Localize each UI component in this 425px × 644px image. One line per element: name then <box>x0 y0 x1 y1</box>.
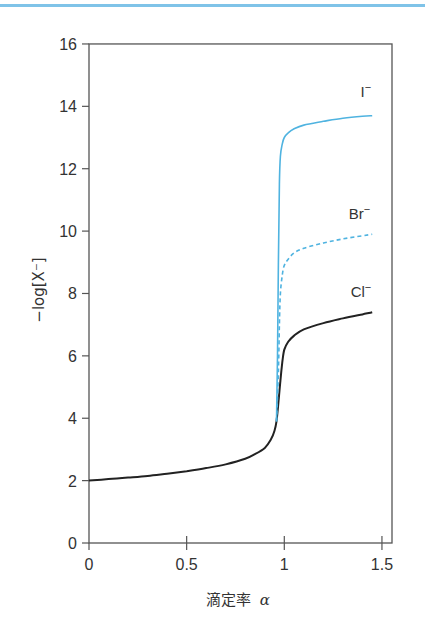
series-label-i: I− <box>360 81 371 100</box>
x-axis-title-symbol: α <box>260 591 270 609</box>
series-label-cl: Cl− <box>351 281 372 300</box>
x-axis: 00.511.5 <box>85 536 394 573</box>
x-tick-label: 0.5 <box>176 556 198 573</box>
curve-cl <box>89 312 372 480</box>
y-tick-label: 14 <box>59 98 77 115</box>
x-tick-label: 0 <box>85 556 94 573</box>
y-axis: 0246810121416 <box>59 36 89 552</box>
x-tick-label: 1 <box>280 556 289 573</box>
y-tick-label: 10 <box>59 223 77 240</box>
plot-frame <box>89 44 392 543</box>
y-axis-title: −log[X⁻] <box>30 257 48 322</box>
series-label-br: Br− <box>349 203 370 222</box>
y-tick-label: 4 <box>68 410 77 427</box>
titration-chart: 0246810121416 00.511.5 I−Br−Cl− −log[X⁻]… <box>0 0 425 644</box>
y-tick-label: 2 <box>68 473 77 490</box>
y-tick-label: 12 <box>59 161 77 178</box>
y-tick-label: 8 <box>68 285 77 302</box>
x-axis-title: 滴定率 α <box>206 591 270 609</box>
y-tick-label: 0 <box>68 535 77 552</box>
curve-i <box>277 116 373 422</box>
x-axis-title-text: 滴定率 <box>206 591 251 609</box>
series-labels: I−Br−Cl− <box>349 81 372 300</box>
curve-br <box>277 234 373 421</box>
y-tick-label: 16 <box>59 36 77 53</box>
series-curves <box>89 116 372 481</box>
plot-border <box>89 44 392 543</box>
x-tick-label: 1.5 <box>371 556 393 573</box>
y-tick-label: 6 <box>68 348 77 365</box>
